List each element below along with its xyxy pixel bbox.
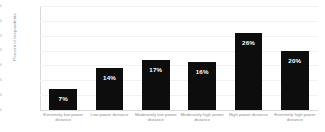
bar-chart: Percent of respondents 7%14%17%16%26%20%… [0, 0, 325, 132]
bar-value-label: 14% [103, 75, 116, 110]
bar-series: 7%14%17%16%26%20% [40, 6, 318, 110]
bar-slot: 16% [179, 6, 225, 110]
x-axis-category-label: Moderately low power distance [133, 112, 179, 132]
x-axis-category-label: Low power distance [86, 112, 132, 132]
bar[interactable]: 17% [142, 60, 170, 111]
bar[interactable]: 26% [235, 33, 263, 110]
bar[interactable]: 14% [96, 68, 124, 110]
gridline [40, 110, 318, 111]
y-axis-tick-label: 25% [0, 34, 2, 38]
x-axis-category-label: Moderately high power distance [179, 112, 225, 132]
bar-slot: 26% [225, 6, 271, 110]
bar-slot: 7% [40, 6, 86, 110]
y-axis-tick-label: 20% [0, 48, 2, 52]
x-axis-category-label: Extremely high power distance [272, 112, 318, 132]
bar-slot: 17% [133, 6, 179, 110]
y-axis-tick-label: 15% [0, 63, 2, 67]
y-axis-tick-label: 10% [0, 78, 2, 82]
bar-slot: 20% [272, 6, 318, 110]
bar-value-label: 26% [242, 40, 255, 110]
y-axis-tick-label: 5% [0, 93, 2, 97]
y-axis-tick-label: 0% [0, 108, 2, 112]
bar-value-label: 17% [149, 67, 162, 111]
bar-slot: 14% [86, 6, 132, 110]
x-axis-category-label: High power distance [225, 112, 271, 132]
bar-value-label: 20% [288, 58, 301, 110]
x-axis-category-labels: Extremely low power distanceLow power di… [40, 112, 318, 132]
bar[interactable]: 16% [188, 62, 216, 110]
bar-value-label: 16% [196, 69, 209, 110]
bar-value-label: 7% [58, 96, 67, 110]
y-axis-tick-label: 35% [0, 4, 2, 8]
bar[interactable]: 7% [49, 89, 77, 110]
y-axis-title: Percent of respondents [10, 0, 20, 83]
bar[interactable]: 20% [281, 51, 309, 110]
x-axis-category-label: Extremely low power distance [40, 112, 86, 132]
y-axis-tick-label: 30% [0, 19, 2, 23]
plot-area: 7%14%17%16%26%20% [40, 6, 318, 110]
